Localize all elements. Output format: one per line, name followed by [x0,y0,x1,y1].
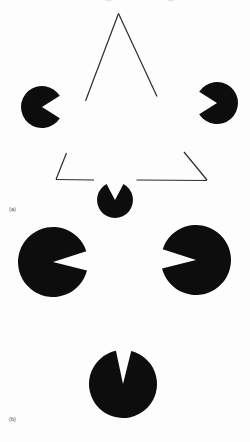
triangle-edge-right-lower [184,152,207,180]
kanizsa-triangle-figure: (a) (b) [0,0,250,442]
outline-triangle [56,14,207,181]
panel-b-pacman-left-icon [18,227,87,297]
panel-a-pacman-left-icon [21,86,60,128]
triangle-edge-left-lower [56,153,67,180]
panel-b-pacman-right-icon [162,225,231,295]
triangle-edge-bottom-left [56,180,94,181]
triangle-edge-bottom-right [137,180,208,181]
scan-artifacts [105,0,174,1]
panel-a-pacman-bottom-icon [97,184,133,218]
figure-canvas [0,0,250,442]
triangle-edge-left-upper [86,14,119,102]
panel-b-group [18,225,231,418]
panel-label-a: (a) [9,207,16,213]
panel-a-group [21,14,238,219]
panel-b-pacman-bottom-icon [89,351,157,418]
artifact-speck [168,0,174,1]
panel-a-pacman-right-icon [199,82,238,124]
artifact-speck [105,0,112,1]
triangle-edge-right-upper [119,14,158,97]
panel-label-b: (b) [9,417,16,423]
